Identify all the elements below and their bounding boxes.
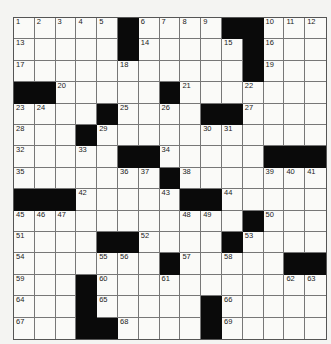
letter-cell[interactable] [222, 146, 243, 167]
letter-cell[interactable] [180, 61, 201, 82]
letter-cell[interactable] [264, 253, 285, 274]
letter-cell[interactable]: 61 [160, 275, 181, 296]
letter-cell[interactable] [284, 61, 305, 82]
letter-cell[interactable] [201, 232, 222, 253]
letter-cell[interactable] [264, 82, 285, 103]
letter-cell[interactable] [118, 82, 139, 103]
letter-cell[interactable] [56, 168, 77, 189]
letter-cell[interactable] [160, 125, 181, 146]
letter-cell[interactable]: 23 [14, 104, 35, 125]
letter-cell[interactable] [284, 125, 305, 146]
letter-cell[interactable] [97, 168, 118, 189]
letter-cell[interactable]: 55 [97, 253, 118, 274]
letter-cell[interactable]: 34 [160, 146, 181, 167]
letter-cell[interactable] [180, 275, 201, 296]
letter-cell[interactable] [139, 211, 160, 232]
letter-cell[interactable] [139, 318, 160, 339]
letter-cell[interactable]: 6 [139, 18, 160, 39]
letter-cell[interactable] [243, 296, 264, 317]
letter-cell[interactable] [56, 39, 77, 60]
letter-cell[interactable] [160, 318, 181, 339]
letter-cell[interactable] [139, 104, 160, 125]
letter-cell[interactable] [56, 232, 77, 253]
letter-cell[interactable] [222, 168, 243, 189]
letter-cell[interactable]: 51 [14, 232, 35, 253]
letter-cell[interactable] [35, 318, 56, 339]
letter-cell[interactable]: 14 [139, 39, 160, 60]
letter-cell[interactable] [139, 61, 160, 82]
letter-cell[interactable]: 35 [14, 168, 35, 189]
letter-cell[interactable] [56, 61, 77, 82]
letter-cell[interactable]: 15 [222, 39, 243, 60]
letter-cell[interactable] [180, 318, 201, 339]
letter-cell[interactable] [35, 61, 56, 82]
letter-cell[interactable]: 10 [264, 18, 285, 39]
letter-cell[interactable] [264, 189, 285, 210]
letter-cell[interactable] [305, 82, 326, 103]
letter-cell[interactable]: 49 [201, 211, 222, 232]
letter-cell[interactable] [35, 125, 56, 146]
letter-cell[interactable]: 60 [97, 275, 118, 296]
letter-cell[interactable] [139, 189, 160, 210]
letter-cell[interactable] [180, 104, 201, 125]
letter-cell[interactable]: 50 [264, 211, 285, 232]
letter-cell[interactable] [76, 104, 97, 125]
letter-cell[interactable] [160, 61, 181, 82]
letter-cell[interactable]: 48 [180, 211, 201, 232]
letter-cell[interactable] [243, 275, 264, 296]
letter-cell[interactable]: 52 [139, 232, 160, 253]
letter-cell[interactable]: 33 [76, 146, 97, 167]
letter-cell[interactable] [201, 39, 222, 60]
letter-cell[interactable] [35, 232, 56, 253]
letter-cell[interactable]: 28 [14, 125, 35, 146]
letter-cell[interactable] [180, 146, 201, 167]
letter-cell[interactable] [180, 296, 201, 317]
letter-cell[interactable]: 69 [222, 318, 243, 339]
letter-cell[interactable]: 37 [139, 168, 160, 189]
letter-cell[interactable]: 65 [97, 296, 118, 317]
letter-cell[interactable] [264, 232, 285, 253]
letter-cell[interactable] [264, 104, 285, 125]
letter-cell[interactable] [180, 125, 201, 146]
letter-cell[interactable]: 2 [35, 18, 56, 39]
letter-cell[interactable] [284, 318, 305, 339]
letter-cell[interactable] [243, 189, 264, 210]
letter-cell[interactable]: 30 [201, 125, 222, 146]
letter-cell[interactable] [35, 146, 56, 167]
letter-cell[interactable] [97, 39, 118, 60]
letter-cell[interactable] [305, 318, 326, 339]
letter-cell[interactable] [35, 275, 56, 296]
letter-cell[interactable] [56, 296, 77, 317]
letter-cell[interactable] [139, 125, 160, 146]
letter-cell[interactable] [139, 275, 160, 296]
letter-cell[interactable] [222, 211, 243, 232]
letter-cell[interactable]: 63 [305, 275, 326, 296]
letter-cell[interactable] [139, 82, 160, 103]
letter-cell[interactable]: 36 [118, 168, 139, 189]
letter-cell[interactable] [97, 189, 118, 210]
letter-cell[interactable]: 58 [222, 253, 243, 274]
letter-cell[interactable] [284, 82, 305, 103]
letter-cell[interactable] [139, 296, 160, 317]
letter-cell[interactable] [305, 211, 326, 232]
letter-cell[interactable] [118, 189, 139, 210]
letter-cell[interactable] [56, 146, 77, 167]
letter-cell[interactable] [56, 125, 77, 146]
letter-cell[interactable] [76, 232, 97, 253]
letter-cell[interactable]: 39 [264, 168, 285, 189]
letter-cell[interactable] [243, 318, 264, 339]
letter-cell[interactable] [201, 61, 222, 82]
letter-cell[interactable] [35, 253, 56, 274]
letter-cell[interactable]: 7 [160, 18, 181, 39]
letter-cell[interactable]: 20 [56, 82, 77, 103]
letter-cell[interactable]: 8 [180, 18, 201, 39]
letter-cell[interactable] [160, 211, 181, 232]
letter-cell[interactable] [76, 82, 97, 103]
letter-cell[interactable] [284, 296, 305, 317]
letter-cell[interactable] [56, 104, 77, 125]
letter-cell[interactable]: 59 [14, 275, 35, 296]
letter-cell[interactable]: 18 [118, 61, 139, 82]
letter-cell[interactable]: 42 [76, 189, 97, 210]
letter-cell[interactable] [180, 39, 201, 60]
letter-cell[interactable]: 29 [97, 125, 118, 146]
